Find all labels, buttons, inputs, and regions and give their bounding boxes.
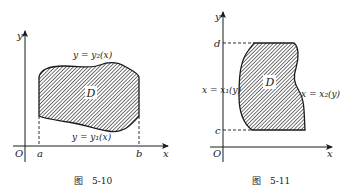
- x-axis-label: x: [327, 148, 333, 159]
- caption-prefix: 图: [252, 176, 261, 186]
- bound-a-label: a: [37, 148, 43, 159]
- y-axis-label: y: [214, 11, 221, 22]
- region-label: D: [86, 87, 96, 100]
- lower-curve-label: y = y₁(x): [71, 132, 112, 142]
- figure-5-11: D x = x₁(y) x = x₂(y) y x O d c 图 5-11: [202, 11, 341, 186]
- y-axis-label: y: [16, 30, 23, 41]
- origin-label: O: [213, 148, 221, 159]
- caption-prefix: 图: [74, 176, 83, 186]
- upper-curve-label: y = y₂(x): [72, 50, 113, 60]
- figure-5-10: D y = y₂(x) y = y₁(x) y x O a b 图 5-10: [13, 30, 169, 186]
- caption-number: 5-11: [270, 176, 290, 186]
- origin-label: O: [15, 148, 23, 159]
- x-axis-label: x: [163, 148, 169, 159]
- region-label: D: [265, 76, 275, 89]
- diagram-canvas: D y = y₂(x) y = y₁(x) y x O a b 图 5-10 D…: [0, 0, 347, 195]
- bound-c-label: c: [215, 125, 221, 136]
- bound-d-label: d: [214, 38, 220, 49]
- left-curve-label: x = x₁(y): [202, 85, 242, 95]
- right-curve-label: x = x₂(y): [301, 89, 341, 99]
- bound-b-label: b: [136, 148, 142, 159]
- caption-number: 5-10: [92, 176, 112, 186]
